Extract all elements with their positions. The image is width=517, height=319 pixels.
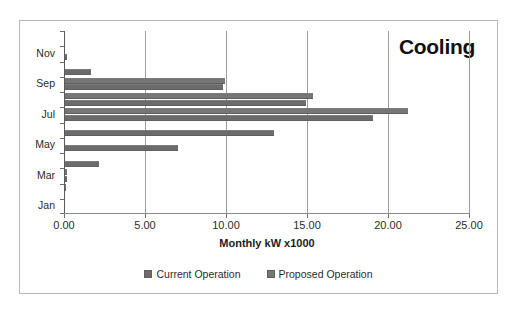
- bar-group-aug: [65, 92, 470, 107]
- x-axis-label: 0.00: [53, 219, 74, 231]
- bar-group-apr: [65, 153, 470, 168]
- x-tick: [469, 214, 470, 218]
- bar-nov-current: [65, 54, 67, 60]
- bar-oct-current: [65, 69, 91, 75]
- y-axis-label-may: May: [4, 138, 64, 150]
- y-tick: [60, 184, 64, 185]
- x-tick: [388, 214, 389, 218]
- x-tick: [145, 214, 146, 218]
- bar-group-jan: [65, 199, 470, 214]
- bar-sep-current: [65, 84, 223, 90]
- y-tick: [60, 92, 64, 93]
- y-axis-label-sep: Sep: [4, 77, 64, 89]
- bar-group-sep: [65, 77, 470, 92]
- plot-inner: JanMarMayJulSepNov: [64, 31, 470, 214]
- y-axis-label-mar: Mar: [4, 169, 64, 181]
- y-tick: [60, 123, 64, 124]
- legend-item-proposed-operation: Proposed Operation: [267, 268, 373, 280]
- bar-group-mar: [65, 168, 470, 183]
- x-axis-label: 15.00: [293, 219, 321, 231]
- y-tick: [60, 153, 64, 154]
- bar-aug-current: [65, 100, 306, 106]
- bar-group-dec: [65, 31, 470, 46]
- plot-area: JanMarMayJulSepNov: [64, 31, 470, 214]
- y-axis-label-jan: Jan: [4, 199, 64, 211]
- bar-feb-proposed: [65, 184, 66, 190]
- y-axis-label-jul: Jul: [4, 108, 64, 120]
- chart-frame: Cooling JanMarMayJulSepNov 0.005.0010.00…: [19, 20, 498, 294]
- x-axis-title: Monthly kW x1000: [64, 237, 470, 249]
- bar-aug-proposed: [65, 93, 313, 99]
- bar-mar-proposed: [65, 169, 67, 175]
- y-tick: [60, 62, 64, 63]
- legend-swatch-icon: [267, 270, 275, 278]
- bar-group-may: [65, 138, 470, 153]
- legend-label: Proposed Operation: [279, 268, 373, 280]
- y-axis-label-nov: Nov: [4, 47, 64, 59]
- legend-item-current-operation: Current Operation: [144, 268, 240, 280]
- bar-jun-current: [65, 130, 274, 136]
- x-axis-label: 25.00: [455, 219, 483, 231]
- chart-legend: Current Operation Proposed Operation: [20, 268, 497, 280]
- y-tick: [60, 31, 64, 32]
- bar-jul-proposed: [65, 108, 408, 114]
- bar-may-current: [65, 145, 178, 151]
- x-tick: [307, 214, 308, 218]
- bar-group-feb: [65, 184, 470, 199]
- x-axis-label: 20.00: [374, 219, 402, 231]
- bar-apr-current: [65, 161, 99, 167]
- bar-group-jun: [65, 123, 470, 138]
- x-axis-label: 10.00: [212, 219, 240, 231]
- legend-swatch-icon: [144, 270, 152, 278]
- x-tick: [64, 214, 65, 218]
- x-tick: [226, 214, 227, 218]
- bar-sep-proposed: [65, 78, 225, 84]
- bar-group-jul: [65, 107, 470, 122]
- bar-group-oct: [65, 62, 470, 77]
- x-axis-label: 5.00: [134, 219, 155, 231]
- bar-group-nov: [65, 46, 470, 61]
- bar-jul-current: [65, 115, 373, 121]
- bar-mar-current: [65, 176, 67, 182]
- legend-label: Current Operation: [156, 268, 240, 280]
